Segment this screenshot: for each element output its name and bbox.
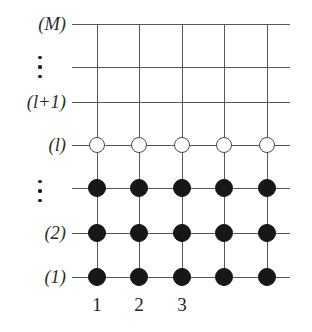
row-ellipsis-lower (36, 180, 44, 202)
lattice-node-open (131, 137, 147, 153)
ellipsis-dot (38, 199, 41, 202)
lattice-horizontal-line (72, 102, 290, 103)
ellipsis-dot (38, 56, 41, 59)
lattice-node-filled (215, 179, 233, 197)
lattice-node-filled (88, 224, 106, 242)
lattice-node-filled (258, 268, 276, 286)
lattice-node-filled (130, 268, 148, 286)
row-label-l: (l) (0, 136, 66, 155)
lattice-node-filled (130, 224, 148, 242)
lattice-node-filled (130, 179, 148, 197)
ellipsis-dot (38, 189, 41, 192)
lattice-diagram: (M) (l+1) (l) (2) (1) 1 2 3 (0, 0, 312, 332)
lattice-node-open (174, 137, 190, 153)
lattice-horizontal-line (72, 67, 290, 68)
row-label-2: (2) (0, 224, 66, 243)
lattice-node-filled (88, 179, 106, 197)
lattice-node-filled (215, 268, 233, 286)
column-label-1: 1 (82, 295, 112, 314)
lattice-node-filled (173, 268, 191, 286)
row-label-M: (M) (0, 15, 66, 34)
column-label-3: 3 (167, 295, 197, 314)
lattice-node-filled (173, 179, 191, 197)
lattice-node-filled (88, 268, 106, 286)
column-label-2: 2 (124, 295, 154, 314)
lattice-node-filled (215, 224, 233, 242)
lattice-horizontal-line (72, 24, 290, 25)
lattice-node-filled (258, 179, 276, 197)
row-label-1: (1) (0, 268, 66, 287)
lattice-node-open (259, 137, 275, 153)
lattice-node-filled (173, 224, 191, 242)
lattice-node-open (89, 137, 105, 153)
row-ellipsis-upper (36, 56, 44, 78)
row-label-l-plus-1: (l+1) (0, 93, 66, 112)
ellipsis-dot (38, 180, 41, 183)
lattice-node-filled (258, 224, 276, 242)
ellipsis-dot (38, 75, 41, 78)
ellipsis-dot (38, 65, 41, 68)
lattice-node-open (216, 137, 232, 153)
